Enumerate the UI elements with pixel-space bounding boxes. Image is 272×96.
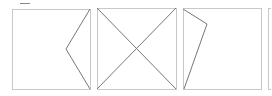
diagram-canvas bbox=[0, 0, 271, 96]
panel-1 bbox=[13, 9, 91, 90]
panel-2 bbox=[97, 8, 177, 90]
panel-4-partial bbox=[269, 9, 272, 90]
panel-3 bbox=[183, 9, 262, 90]
panel-border bbox=[13, 10, 91, 90]
fold-line bbox=[183, 9, 207, 89]
panel-border bbox=[184, 9, 262, 90]
panel-border bbox=[269, 9, 272, 90]
fold-line bbox=[66, 9, 90, 89]
